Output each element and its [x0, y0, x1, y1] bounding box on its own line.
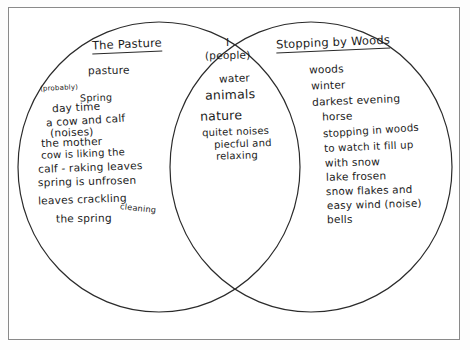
overlap-item-1: (people)	[205, 49, 251, 62]
right-item-10: bells	[327, 213, 353, 225]
overlap-item-2: water	[219, 71, 251, 85]
right-item-1: winter	[311, 78, 346, 91]
right-item-0: woods	[309, 62, 344, 75]
left-item-8: spring is unfrosen	[38, 174, 137, 189]
worksheet-page: The Pasture pasture (probably) Spring da…	[0, 0, 470, 350]
left-item-10: the spring	[56, 212, 112, 225]
overlap-item-5: quitet noises	[202, 125, 269, 138]
overlap-item-7: relaxing	[216, 149, 258, 161]
overlap-item-0: I	[226, 36, 229, 48]
right-item-9: easy wind (noise)	[327, 197, 422, 211]
left-item-0: pasture	[88, 64, 130, 77]
overlap-item-6: piecful and	[214, 137, 272, 150]
left-item-3: day time	[52, 100, 101, 115]
right-item-7: lake frosen	[326, 169, 387, 183]
overlap-item-4: nature	[200, 107, 243, 123]
left-circle-title: The Pasture	[92, 36, 163, 55]
right-item-8: snow flakes and	[326, 183, 413, 197]
right-item-6: with snow	[325, 155, 380, 168]
right-item-3: horse	[322, 109, 353, 122]
overlap-item-3: animals	[205, 86, 256, 103]
left-item-12: (noises)	[50, 125, 94, 139]
